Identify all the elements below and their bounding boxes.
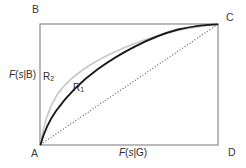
chance-diagonal-line xyxy=(41,25,218,145)
corner-label-d: D xyxy=(228,147,236,158)
corner-label-a: A xyxy=(31,148,38,159)
curve-r2 xyxy=(41,24,218,144)
roc-figure: B C A D F(s|B) F(s|G) R2 R1 xyxy=(0,0,246,168)
corner-label-b: B xyxy=(32,4,39,15)
x-axis-label-close: ) xyxy=(144,147,147,158)
figure-canvas xyxy=(0,0,246,168)
y-axis-label: F(s|B) xyxy=(9,70,36,80)
x-axis-label-cond: G xyxy=(136,147,144,158)
curve-label-r2-sub: 2 xyxy=(50,75,54,82)
y-axis-label-close: ) xyxy=(33,69,36,80)
x-axis-label: F(s|G) xyxy=(119,148,147,158)
corner-label-c: C xyxy=(226,12,234,23)
curve-label-r1-sub: 1 xyxy=(80,86,84,93)
curve-label-r2: R2 xyxy=(43,72,54,82)
y-axis-label-cond: B xyxy=(26,69,33,80)
curve-label-r1: R1 xyxy=(73,83,84,93)
curve-r1 xyxy=(41,24,218,144)
